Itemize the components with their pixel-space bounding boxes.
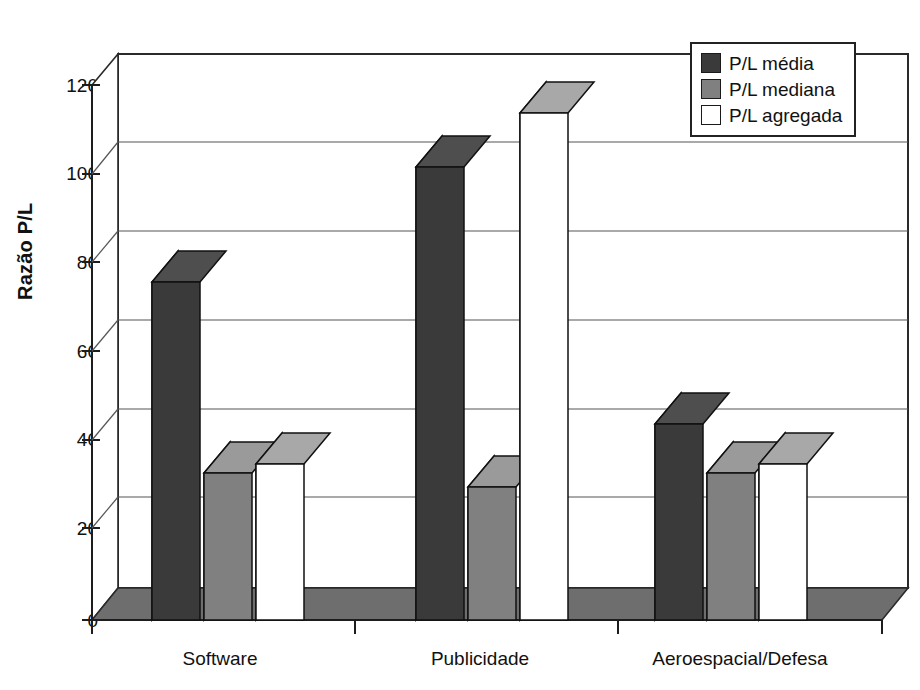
legend-item-agregada: P/L agregada — [701, 102, 842, 128]
plot-left-wall — [92, 54, 118, 620]
x-axis — [92, 620, 882, 634]
legend-item-mediana: P/L mediana — [701, 76, 842, 102]
chart-figure: Razão P/L 120 100 80 60 40 20 0 Software… — [0, 0, 920, 690]
legend-swatch-agregada — [701, 105, 721, 125]
legend-label-agregada: P/L agregada — [729, 106, 842, 125]
legend-item-media: P/L média — [701, 50, 842, 76]
legend-label-media: P/L média — [729, 54, 814, 73]
legend-swatch-media — [701, 53, 721, 73]
legend-label-mediana: P/L mediana — [729, 80, 835, 99]
chart-legend: P/L média P/L mediana P/L agregada — [690, 42, 856, 137]
legend-swatch-mediana — [701, 79, 721, 99]
